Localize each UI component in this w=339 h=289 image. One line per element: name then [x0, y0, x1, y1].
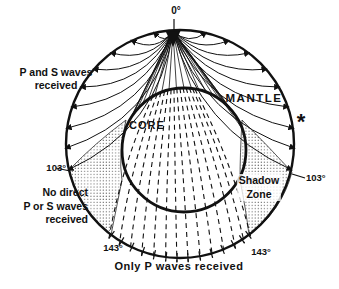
only-p-waves-caption: Only P waves received: [115, 260, 244, 272]
no-direct-line3: received: [8, 213, 88, 227]
p-and-s-waves-line2: received: [20, 79, 93, 92]
no-direct-line2: P or S waves: [8, 200, 88, 214]
no-direct-line1: No direct: [8, 186, 88, 200]
shadow-zone-line1: Shadow: [237, 174, 281, 188]
p-and-s-waves-label: P and S waves received: [20, 66, 93, 92]
angle-label-103-right: 103°: [306, 172, 326, 183]
shadow-zone-line2: Zone: [237, 188, 281, 202]
core-label: CORE: [129, 119, 165, 131]
no-direct-waves-label: No direct P or S waves received: [8, 186, 88, 227]
angle-label-143-right: 143°: [251, 246, 271, 257]
p-wave-ray-through-core: [186, 88, 224, 253]
shadow-zone-label: Shadow Zone: [237, 174, 281, 201]
angle-label-143-left: 143°: [103, 242, 123, 253]
p-wave-ray-through-core: [177, 88, 188, 261]
p-wave-ray-through-core: [166, 89, 172, 261]
seismograph-station-asterisk: *: [297, 115, 306, 129]
p-wave-ray-through-core: [130, 92, 161, 251]
p-wave-ray-through-core: [189, 88, 235, 248]
angle-label-103-left: 103°: [28, 162, 66, 173]
p-and-s-waves-line1: P and S waves: [20, 66, 93, 79]
angle-label-0: 0°: [171, 5, 181, 16]
tick-103-right: [292, 174, 305, 178]
earth-cross-section-diagram: [0, 0, 339, 289]
mantle-label: MANTLE: [226, 92, 283, 104]
seismic-shadow-zone-figure: 0° P and S waves received MANTLE CORE * …: [0, 0, 339, 289]
core-boundary-circle: [122, 88, 246, 212]
p-wave-ray-through-core: [174, 89, 177, 262]
